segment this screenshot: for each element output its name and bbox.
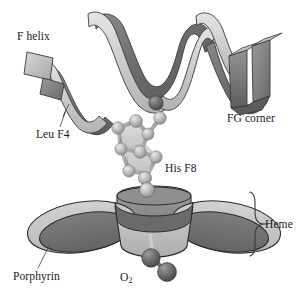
diagram-canvas <box>0 0 308 292</box>
label-o2: O2 <box>120 272 133 285</box>
iron-atom <box>140 183 155 198</box>
o2-atom-distal <box>158 263 177 282</box>
his-cb-atom <box>149 96 163 110</box>
myoglobin-heme-diagram: F helix Leu F4 FG corner His F8 Heme Por… <box>0 0 308 292</box>
label-his-f8: His F8 <box>165 163 197 175</box>
label-heme: Heme <box>265 219 293 231</box>
his-f8-imidazole <box>112 96 167 200</box>
label-f-helix: F helix <box>17 31 50 43</box>
o2-atom-proximal <box>142 249 160 267</box>
label-fg-corner: FG corner <box>227 113 275 125</box>
label-porphyrin: Porphyrin <box>13 271 60 283</box>
heme-group <box>24 183 284 261</box>
label-leu-f4: Leu F4 <box>36 129 70 141</box>
label-o2-subscript: 2 <box>128 276 132 285</box>
